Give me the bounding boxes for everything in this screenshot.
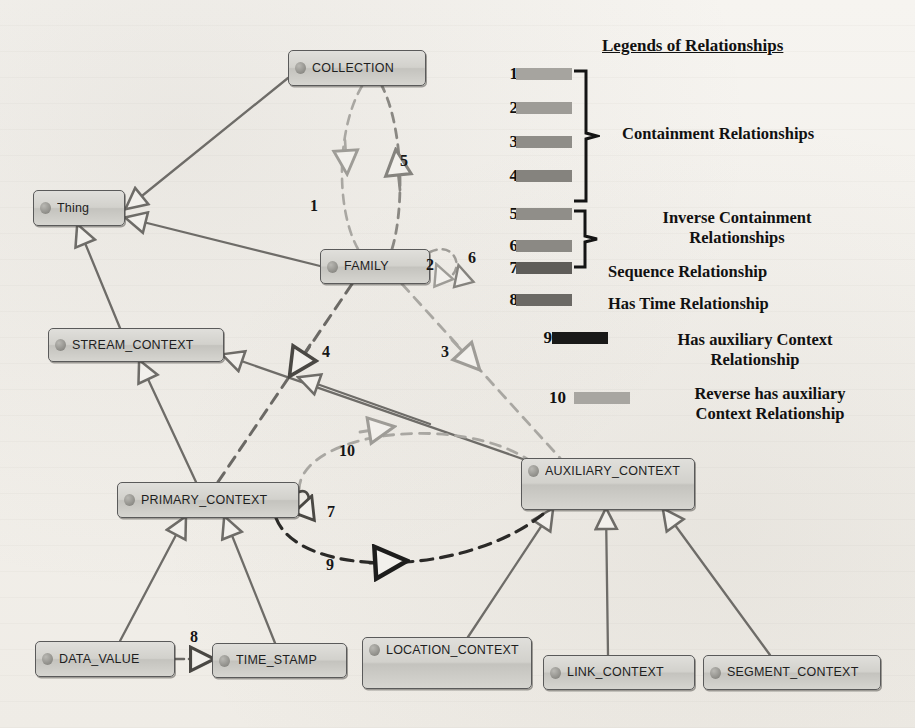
- edge-4-family-primarycontext: [218, 284, 352, 482]
- node-bullet-icon: [219, 655, 230, 667]
- node-label: PRIMARY_CONTEXT: [141, 493, 291, 508]
- node-bullet-icon: [369, 644, 380, 656]
- legend-number-3: 3: [492, 132, 518, 152]
- node-family[interactable]: FAMILY: [320, 249, 430, 284]
- node-label: AUXILIARY_CONTEXT: [545, 464, 687, 479]
- edge-3-arrow-carrier: [452, 340, 478, 368]
- node-label: TIME_STAMP: [236, 653, 339, 668]
- legend-group-hasaux-line2: Relationship: [610, 350, 900, 370]
- node-bullet-icon: [124, 494, 135, 506]
- legend-title: Legends of Relationships: [602, 36, 783, 56]
- legend-number-10: 10: [540, 388, 566, 408]
- legend-number-9: 9: [526, 328, 552, 348]
- inverse-containment-brace: [570, 208, 600, 270]
- node-bullet-icon: [528, 465, 539, 477]
- diagram-canvas: COLLECTIONThingFAMILYSTREAM_CONTEXTPRIMA…: [0, 0, 915, 728]
- node-bullet-icon: [55, 339, 66, 351]
- edge-number-1: 1: [310, 197, 318, 215]
- legend-number-1: 1: [492, 64, 518, 84]
- edge-timestamp-primarycontext: [225, 518, 275, 643]
- legend-group-hasaux-line1: Has auxiliary Context: [610, 330, 900, 350]
- legend-number-8: 8: [492, 290, 518, 310]
- node-bullet-icon: [327, 261, 338, 273]
- edge-family-thing: [127, 218, 320, 266]
- legend-number-6: 6: [492, 236, 518, 256]
- edge-collection-thing: [127, 78, 288, 208]
- node-link_context[interactable]: LINK_CONTEXT: [543, 655, 695, 690]
- legend-group-sequence: Sequence Relationship: [608, 262, 888, 282]
- legend-number-4: 4: [492, 166, 518, 186]
- node-bullet-icon: [295, 62, 306, 74]
- node-label: COLLECTION: [312, 61, 418, 76]
- node-stream_context[interactable]: STREAM_CONTEXT: [48, 328, 224, 362]
- node-auxiliary_context[interactable]: AUXILIARY_CONTEXT: [521, 458, 695, 510]
- legend-group-revaux-line2: Context Relationship: [630, 404, 910, 424]
- legend-swatch-7: [516, 262, 572, 274]
- legend-group-inverse-line2: Relationships: [622, 228, 852, 248]
- node-label: LOCATION_CONTEXT: [386, 643, 524, 658]
- legend-swatch-1: [516, 68, 572, 80]
- edge-10-arrow-carrier: [360, 427, 392, 432]
- node-bullet-icon: [550, 667, 561, 679]
- edge-locationcontext-auxiliarycontext: [468, 510, 552, 637]
- edge-6-arrow-carrier: [459, 267, 462, 278]
- edge-1-collection-family: [342, 86, 362, 249]
- node-bullet-icon: [42, 653, 53, 665]
- legend-swatch-6: [516, 240, 572, 252]
- node-primary_context[interactable]: PRIMARY_CONTEXT: [117, 482, 299, 518]
- edge-number-10: 10: [339, 442, 355, 460]
- legend-swatch-10: [574, 392, 630, 404]
- edge-auxiliarycontext-streamcontext-mid: [300, 378, 430, 424]
- edge-number-4: 4: [322, 343, 330, 361]
- edge-primarycontext-streamcontext: [140, 362, 196, 482]
- edge-number-2: 2: [426, 256, 434, 274]
- legend-group-revaux-line1: Reverse has auxiliary: [630, 384, 910, 404]
- edge-9-primarycontext-auxiliarycontext: [276, 510, 548, 563]
- node-label: STREAM_CONTEXT: [72, 338, 216, 353]
- edge-streamcontext-thing: [78, 226, 120, 328]
- legend-number-5: 5: [492, 204, 518, 224]
- edge-linkcontext-auxiliarycontext: [606, 510, 608, 655]
- legend-swatch-8: [516, 294, 572, 306]
- legend-group-inverse-line1: Inverse Containment: [622, 208, 852, 228]
- edge-number-8: 8: [190, 628, 198, 646]
- node-thing[interactable]: Thing: [33, 190, 125, 226]
- edge-number-9: 9: [326, 556, 334, 574]
- legend-group-hastime: Has Time Relationship: [608, 294, 898, 314]
- legend-swatch-3: [516, 136, 572, 148]
- legend-number-2: 2: [492, 98, 518, 118]
- legend-number-7: 7: [492, 258, 518, 278]
- node-location_context[interactable]: LOCATION_CONTEXT: [362, 637, 532, 689]
- edge-number-7: 7: [327, 503, 335, 521]
- legend-panel: Legends of Relationships 12345678910 Con…: [482, 36, 912, 436]
- legend-swatch-4: [516, 170, 572, 182]
- node-bullet-icon: [710, 667, 721, 679]
- node-time_stamp[interactable]: TIME_STAMP: [212, 643, 347, 678]
- legend-swatch-2: [516, 102, 572, 114]
- edge-9-arrow-carrier: [370, 561, 404, 563]
- legend-group-containment: Containment Relationships: [622, 124, 902, 144]
- edge-1-arrowhead-carrier: [345, 140, 347, 172]
- edge-number-3: 3: [441, 343, 449, 361]
- node-segment_context[interactable]: SEGMENT_CONTEXT: [703, 655, 881, 690]
- node-label: FAMILY: [344, 259, 422, 274]
- node-label: LINK_CONTEXT: [567, 665, 687, 680]
- containment-brace: [570, 68, 600, 204]
- legend-swatch-9: [552, 332, 608, 344]
- edge-number-5: 5: [400, 152, 408, 170]
- edge-10-auxiliarycontext-primarycontext: [299, 433, 540, 490]
- node-label: DATA_VALUE: [59, 652, 167, 667]
- node-data_value[interactable]: DATA_VALUE: [35, 641, 175, 677]
- edge-2-arrow-carrier: [437, 266, 441, 276]
- node-collection[interactable]: COLLECTION: [288, 50, 426, 86]
- node-label: SEGMENT_CONTEXT: [727, 665, 873, 680]
- edge-4-arrow-carrier: [291, 345, 310, 374]
- edge-segmentcontext-auxiliarycontext: [664, 510, 770, 655]
- legend-swatch-5: [516, 208, 572, 220]
- edge-number-6: 6: [468, 249, 476, 267]
- node-label: Thing: [57, 201, 117, 216]
- edge-datavalue-primarycontext: [120, 518, 185, 641]
- node-bullet-icon: [40, 202, 51, 214]
